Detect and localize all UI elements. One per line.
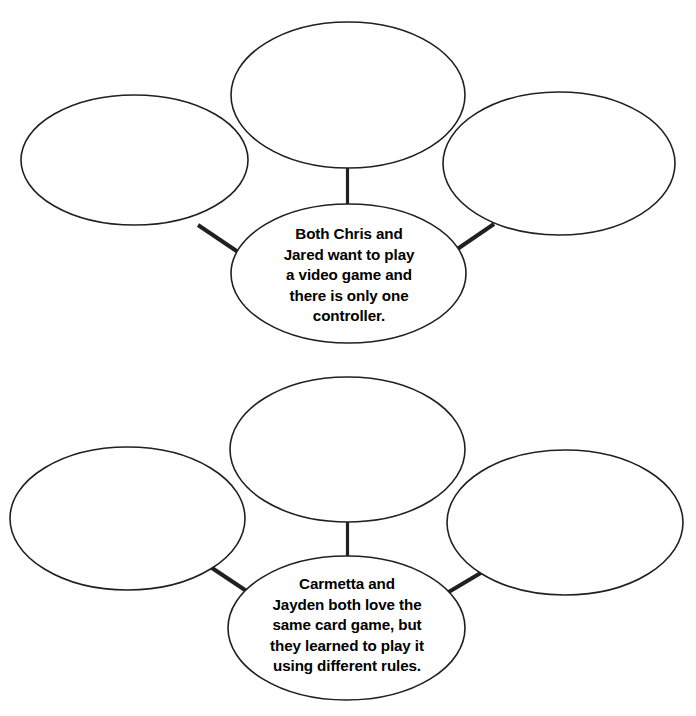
scenario-1-connector-right bbox=[453, 224, 494, 252]
scenario-2-center-bubble[interactable] bbox=[228, 556, 465, 700]
scenario-1-connector-left bbox=[198, 225, 241, 254]
scenario-1-top-response-ellipse[interactable] bbox=[231, 22, 465, 168]
scenario-2-connector-right bbox=[447, 571, 484, 593]
scenario-1-right-response-ellipse[interactable] bbox=[443, 92, 675, 235]
worksheet-canvas: Both Chris and Jared want to play a vide… bbox=[0, 0, 696, 716]
scenario-1-center-bubble[interactable] bbox=[231, 204, 466, 343]
scenario-1-group bbox=[21, 22, 675, 343]
scenario-2-left-response-ellipse[interactable] bbox=[10, 447, 245, 590]
scenario-2-right-response-ellipse[interactable] bbox=[447, 450, 683, 595]
scenario-2-connector-left bbox=[209, 566, 248, 592]
scenario-2-group bbox=[10, 377, 683, 700]
scenario-1-left-response-ellipse[interactable] bbox=[21, 95, 248, 225]
scenario-2-top-response-ellipse[interactable] bbox=[230, 377, 465, 522]
graphic-organizer-diagram bbox=[0, 0, 696, 716]
